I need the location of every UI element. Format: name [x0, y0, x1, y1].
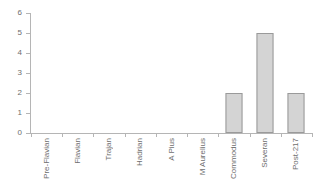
y-tick-label: 1: [0, 109, 22, 117]
bar-slot: [156, 13, 187, 133]
bar-slot: [125, 13, 156, 133]
y-tick-label: 0: [0, 129, 22, 137]
bar-slot: [93, 13, 124, 133]
y-tick-label: 6: [0, 9, 22, 17]
x-tick-label: Hadrian: [136, 138, 144, 166]
x-tick-mark: [62, 133, 63, 137]
x-axis-line: [30, 133, 312, 134]
x-tick-mark: [156, 133, 157, 137]
x-tick-label: Post-217: [292, 138, 300, 170]
y-tick-mark: [26, 13, 30, 14]
x-tick-label: Flavian: [74, 138, 82, 164]
x-tick-mark: [31, 133, 32, 137]
bar[interactable]: [225, 93, 242, 133]
y-tick-mark: [26, 113, 30, 114]
x-tick-label: A Pius: [168, 138, 176, 161]
y-tick-mark: [26, 93, 30, 94]
y-tick-mark: [26, 133, 30, 134]
bar-slot: [62, 13, 93, 133]
x-tick-label: M Aurelius: [199, 138, 207, 175]
x-tick-mark: [218, 133, 219, 137]
x-tick-mark: [281, 133, 282, 137]
x-tick-label: Severan: [261, 138, 269, 168]
y-tick-label: 2: [0, 89, 22, 97]
x-tick-mark: [93, 133, 94, 137]
bar-slot: [31, 13, 62, 133]
y-tick-label: 4: [0, 49, 22, 57]
y-tick-label: 5: [0, 29, 22, 37]
y-tick-label: 3: [0, 69, 22, 77]
x-tick-mark: [250, 133, 251, 137]
bar-slot: [187, 13, 218, 133]
bar-slot: [250, 13, 281, 133]
x-tick-label: Trajan: [105, 138, 113, 160]
x-tick-mark: [187, 133, 188, 137]
x-tick-mark: [312, 133, 313, 137]
y-tick-mark: [26, 73, 30, 74]
x-tick-mark: [125, 133, 126, 137]
x-tick-label: Pre-Flavian: [43, 138, 51, 179]
plot-area: [31, 13, 312, 133]
bar-slot: [218, 13, 249, 133]
bar-slot: [281, 13, 312, 133]
x-tick-label: Commodus: [230, 138, 238, 179]
y-tick-mark: [26, 33, 30, 34]
bar-chart: 0123456 Pre-FlavianFlavianTrajanHadrianA…: [0, 0, 319, 196]
bar[interactable]: [288, 93, 305, 133]
y-tick-mark: [26, 53, 30, 54]
bar[interactable]: [257, 33, 274, 133]
